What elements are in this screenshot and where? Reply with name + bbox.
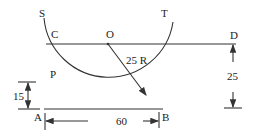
semicircle-arc — [44, 18, 173, 77]
label-o: O — [106, 28, 114, 40]
label-c: C — [51, 28, 58, 40]
label-left-height: 15 — [13, 90, 25, 102]
label-base-length: 60 — [116, 115, 128, 127]
label-s: S — [39, 7, 45, 19]
label-p: P — [50, 68, 56, 80]
label-b: B — [162, 111, 169, 123]
label-radius: 25 R — [126, 54, 148, 66]
geometry-diagram: S C O T D P A B 25 R 15 25 60 — [0, 0, 255, 138]
label-a: A — [34, 111, 42, 123]
label-right-height: 25 — [227, 70, 239, 82]
label-d: D — [230, 29, 238, 41]
label-t: T — [161, 7, 168, 19]
center-point-o — [107, 43, 110, 46]
